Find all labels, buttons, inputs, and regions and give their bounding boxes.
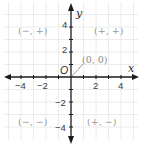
x-tick-neg2: −2 [37, 80, 48, 91]
x-axis-left-arrow-icon [4, 74, 11, 80]
y-tick-2: 2 [62, 44, 67, 55]
y-tick-neg4: −4 [55, 122, 66, 133]
y-axis-up-arrow-icon [68, 3, 74, 11]
x-tick-4: 4 [118, 80, 123, 91]
x-axis-label: x [128, 62, 135, 75]
coordinate-plane: −4 −2 2 4 x 4 2 −2 −4 y O (0, 0) (−, +) … [0, 0, 143, 148]
quadrant-2-label: (−, +) [18, 25, 47, 36]
quadrant-1-label: (+, +) [94, 25, 123, 36]
y-tick-neg2: −2 [55, 97, 66, 108]
origin-label: O [60, 64, 68, 76]
origin-callout: (0, 0) [82, 54, 108, 65]
quadrant-4-label: (+, −) [87, 116, 116, 127]
quadrant-3-label: (−, −) [18, 116, 47, 127]
x-tick-2: 2 [93, 80, 98, 91]
y-tick-4: 4 [62, 19, 67, 30]
x-tick-neg4: −4 [15, 80, 26, 91]
origin-callout-line [72, 64, 83, 76]
y-axis-label: y [75, 7, 83, 20]
y-axis-down-arrow-icon [68, 136, 74, 144]
